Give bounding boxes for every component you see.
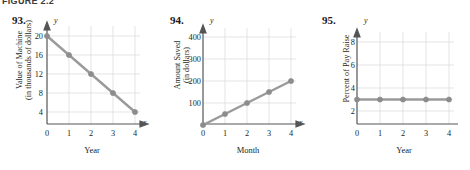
data-point <box>354 97 359 102</box>
chart-panel-95: 95. Percent of Pay Raise y 8 6 4 2 0 1 2… <box>312 6 468 170</box>
chart-svg-93 <box>0 6 156 146</box>
data-point <box>423 97 428 102</box>
x-axis-label-93: Year <box>60 145 124 155</box>
gridlines-94 <box>203 28 296 124</box>
chart-panel-93: 93. Value of Machine (in thousands of do… <box>0 6 156 170</box>
data-point <box>446 97 451 102</box>
data-point <box>132 109 137 114</box>
data-point <box>44 33 49 38</box>
data-point <box>244 100 249 105</box>
axes-95 <box>354 29 458 124</box>
data-point <box>88 71 93 76</box>
data-point <box>377 97 382 102</box>
figure-caption: FIGURE 2.2 <box>2 0 54 4</box>
data-point <box>266 89 271 94</box>
data-point <box>110 90 115 95</box>
chart-svg-94 <box>156 6 312 146</box>
data-point <box>222 111 227 116</box>
data-point <box>66 52 71 57</box>
plot-area-95 <box>312 6 468 146</box>
plot-area-94 <box>156 6 312 146</box>
chart-svg-95 <box>312 6 468 146</box>
data-point <box>200 122 205 127</box>
axes-94 <box>200 25 304 127</box>
gridlines-95 <box>357 32 454 124</box>
data-point <box>288 78 293 83</box>
x-axis-label-94: Month <box>216 145 280 155</box>
chart-panel-94: 94. Amount Saved (in dollars) y x 400 30… <box>156 6 312 170</box>
data-point <box>400 97 405 102</box>
x-axis-label-95: Year <box>372 145 436 155</box>
figure-page: FIGURE 2.2 93. Value of Machine (in thou… <box>0 0 470 170</box>
plot-area-93 <box>0 6 156 146</box>
